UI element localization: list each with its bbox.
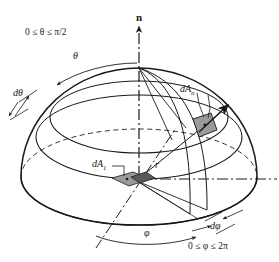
label-area-base: dA1	[92, 159, 107, 172]
label-phi-range: 0 ≤ φ ≤ 2π	[188, 242, 228, 252]
label-area-base-subscript: 1	[103, 164, 107, 172]
label-area-normal-text: dA	[180, 83, 191, 94]
oblique-reference-axis	[96, 128, 176, 248]
label-normal-axis: n	[136, 12, 142, 23]
label-area-normal: dAn	[180, 84, 195, 97]
label-d-theta: dθ	[13, 88, 23, 98]
apex-radial-lines	[139, 68, 186, 140]
area-element-normal-patch	[193, 105, 228, 137]
label-d-phi: dφ	[210, 221, 221, 231]
area-element-base-patch	[112, 172, 155, 186]
diagram-canvas	[0, 0, 279, 262]
label-area-normal-subscript: n	[191, 89, 195, 97]
label-area-base-text: dA	[92, 158, 103, 169]
label-theta-range: 0 ≤ θ ≤ π/2	[25, 28, 66, 38]
hemisphere-solid-angle-figure: n 0 ≤ θ ≤ π/2 θ dθ dAn dA1 r φ dφ 0 ≤ φ …	[0, 0, 279, 262]
label-theta: θ	[73, 51, 78, 61]
label-phi: φ	[144, 228, 150, 238]
origin-to-base-rays	[137, 181, 207, 219]
area-base-leader	[112, 166, 124, 176]
label-radius: r	[155, 160, 159, 170]
